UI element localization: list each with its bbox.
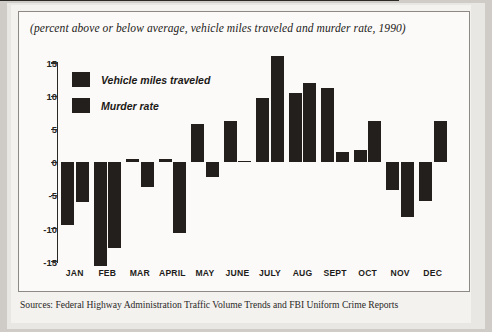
chart-bar [289,93,302,163]
y-axis-tick-label: 15 [35,58,57,69]
chart-bar [336,152,349,162]
chart-source-note: Sources: Federal Highway Administration … [20,299,398,310]
chart-bar [141,162,154,186]
x-axis-tick-label: JAN [66,268,84,278]
chart-bar [108,162,121,248]
chart-legend: Vehicle miles traveled Murder rate [72,72,210,124]
legend-item-murder-rate: Murder rate [72,98,210,113]
chart-bar [419,162,432,200]
chart-bar [386,162,399,190]
legend-swatch-icon [72,98,90,113]
x-axis-tick-label: SEPT [323,268,346,278]
x-axis-tick-label: APRIL [159,268,186,278]
chart-bar [126,159,139,162]
x-axis-tick-label: NOV [391,268,410,278]
x-axis-tick-label: MAY [195,268,214,278]
x-axis-tick-label: MAR [130,268,150,278]
chart-bar [238,161,251,162]
chart-bar [434,121,447,163]
chart-bar [206,162,219,177]
chart-bar [271,56,284,162]
x-axis-tick-label: JUNE [226,268,250,278]
legend-label: Murder rate [101,100,159,112]
legend-item-vehicle-miles-traveled: Vehicle miles traveled [72,72,210,87]
y-axis-tick-label: 5 [35,124,57,135]
chart-bar [224,121,237,162]
y-axis-tick-label: -10 [35,223,57,234]
legend-label: Vehicle miles traveled [101,74,210,86]
zero-baseline [0,0,399,1]
chart-bar [401,162,414,217]
y-axis-tick-label: -5 [35,190,57,201]
chart-bar [159,159,172,162]
x-axis-tick-label: FEB [98,268,116,278]
chart-bar [368,121,381,163]
chart-bar [94,162,107,265]
y-axis-tick-label: -15 [35,256,57,267]
chart-bar [321,88,334,162]
x-axis-tick-label: OCT [358,268,377,278]
y-axis-tick-label: 0 [35,157,57,168]
chart-bar [76,162,89,202]
x-axis-tick-label: JULY [259,268,281,278]
chart-bar [173,162,186,233]
chart-bar [61,162,74,225]
screenshot-page: (percent above or below average, vehicle… [0,0,492,332]
y-axis-line [57,62,58,263]
chart-bar [256,98,269,162]
y-axis-tick-label: 10 [35,91,57,102]
legend-swatch-icon [72,72,90,87]
x-axis-tick-label: DEC [423,268,442,278]
chart-bar [191,124,204,162]
chart-bar [354,150,367,162]
x-axis-tick-label: AUG [293,268,313,278]
chart-bar [303,83,316,162]
chart-plot-area: 151050-5-10-15JANFEBMARAPRILMAYJUNEJULYA… [0,0,492,332]
